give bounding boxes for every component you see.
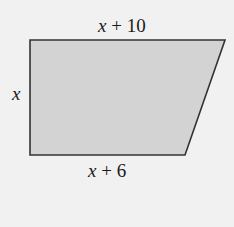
trapezoid-shape — [30, 40, 225, 155]
left-side-label: x — [11, 83, 21, 104]
bottom-side-label: x + 6 — [87, 160, 126, 181]
top-side-label: x + 10 — [97, 15, 146, 36]
trapezoid-diagram: x + 10 x x + 6 — [0, 0, 234, 227]
